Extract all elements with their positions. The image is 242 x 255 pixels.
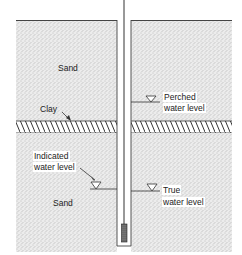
label-sand-lower: Sand xyxy=(53,198,73,208)
label-indicated-1: Indicated xyxy=(33,151,70,161)
label-sand-upper: Sand xyxy=(58,63,78,73)
well-screen xyxy=(122,224,128,242)
well-perched-water-diagram xyxy=(0,0,242,255)
label-perched-2: water level xyxy=(163,103,206,113)
label-true-1: True xyxy=(162,185,181,195)
label-perched-1: Perched xyxy=(163,92,197,102)
label-indicated-2: water level xyxy=(33,162,76,172)
label-clay: Clay xyxy=(40,104,57,114)
label-true-2: water level xyxy=(162,197,205,207)
